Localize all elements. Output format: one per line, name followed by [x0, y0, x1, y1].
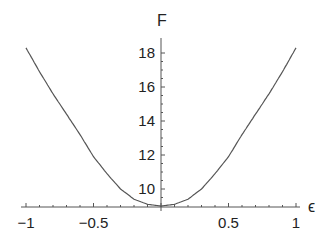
- x-tick-label: 1: [292, 214, 300, 231]
- y-tick-label: 16: [138, 78, 155, 95]
- y-axis: 1012141618: [138, 38, 165, 211]
- y-axis-label: F: [157, 12, 167, 29]
- y-tick-label: 10: [138, 180, 155, 197]
- x-tick-label: −1: [17, 214, 34, 231]
- y-tick-label: 18: [138, 44, 155, 61]
- x-axis: −1−0.50.51: [17, 203, 300, 231]
- x-tick-label: −0.5: [79, 214, 109, 231]
- chart: −1−0.50.51 1012141618 ϵ F: [0, 0, 332, 241]
- y-tick-label: 12: [138, 146, 155, 163]
- x-axis-label: ϵ: [308, 198, 315, 215]
- x-tick-label: 0.5: [218, 214, 239, 231]
- y-tick-label: 14: [138, 112, 155, 129]
